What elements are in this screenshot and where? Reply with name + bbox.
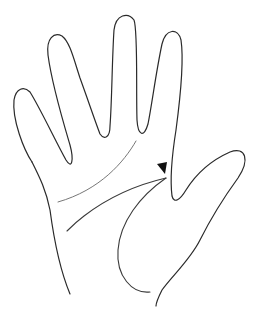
life-line (118, 178, 166, 292)
hand-drawing (0, 0, 260, 316)
head-line (67, 178, 166, 231)
palm-left-edge (32, 162, 70, 294)
arrowhead-marker (157, 162, 167, 174)
heart-line (58, 141, 136, 202)
hand-outline (14, 15, 245, 306)
hand-diagram (0, 0, 260, 316)
